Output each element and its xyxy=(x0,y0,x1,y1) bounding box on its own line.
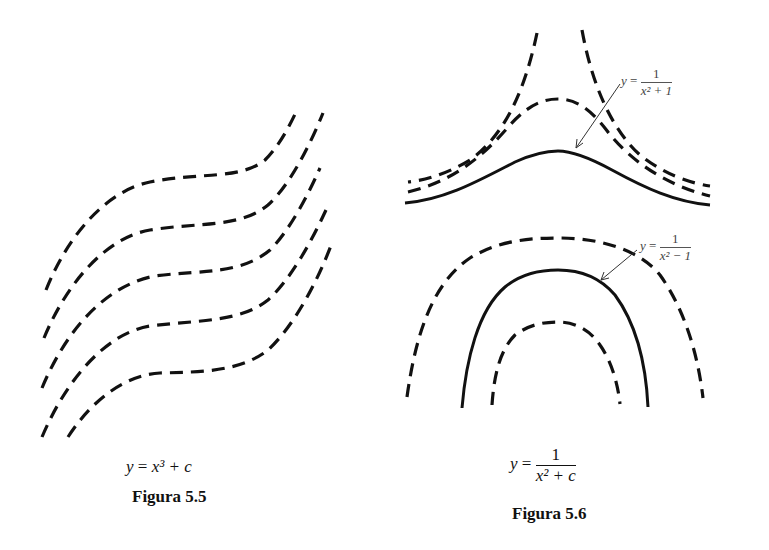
fig56-lhs: y xyxy=(510,454,518,473)
annotation-upper-eq-sign: = xyxy=(630,73,637,88)
annotation-upper-equation: y = 1 x² + 1 xyxy=(621,66,672,99)
figure-5-5-equation: y = x³ + c xyxy=(126,457,192,477)
fig56-numerator: 1 xyxy=(536,445,576,466)
cubic-curve-1 xyxy=(46,110,297,290)
annotation-lower-eq-sign: = xyxy=(649,238,656,253)
fig56-denominator: x² + c xyxy=(536,466,576,486)
upper-tall-dashed-curve-right xyxy=(582,30,710,186)
annotation-upper-fraction: 1 x² + 1 xyxy=(641,66,672,99)
upper-mid-dashed-curve xyxy=(408,99,710,196)
fig56-eq-sign: = xyxy=(522,454,532,473)
figure-5-6-equation: y = 1 x² + c xyxy=(510,445,576,486)
figure-5-6-caption: Figura 5.6 xyxy=(512,504,587,524)
annotation-upper-numerator: 1 xyxy=(641,66,672,83)
annotation-lower-fraction: 1 x² − 1 xyxy=(660,231,691,264)
figure-5-5-caption: Figura 5.5 xyxy=(132,487,207,507)
fig55-eq-sign: = xyxy=(138,457,148,476)
lower-inner-dashed-arc xyxy=(492,322,620,405)
cubic-curve-2 xyxy=(44,113,323,338)
fig56-fraction: 1 x² + c xyxy=(536,445,576,486)
cubic-curve-3 xyxy=(42,168,320,388)
annotation-lower-lhs: y xyxy=(640,238,646,253)
fig55-lhs: y xyxy=(126,457,134,476)
annotation-upper-denominator: x² + 1 xyxy=(641,83,672,99)
lower-annotation-arrow xyxy=(601,250,637,280)
annotation-lower-equation: y = 1 x² − 1 xyxy=(640,231,691,264)
lower-solid-arc xyxy=(462,270,648,408)
annotation-lower-numerator: 1 xyxy=(660,231,691,248)
figure-5-5-curves xyxy=(42,110,332,437)
annotation-upper-lhs: y xyxy=(621,73,627,88)
cubic-curve-4 xyxy=(42,210,326,437)
fig55-rhs: x³ + c xyxy=(152,457,192,476)
figure-5-6-upper-curves xyxy=(405,30,710,205)
upper-annotation-arrow xyxy=(576,84,620,148)
annotation-lower-denominator: x² − 1 xyxy=(660,248,691,264)
